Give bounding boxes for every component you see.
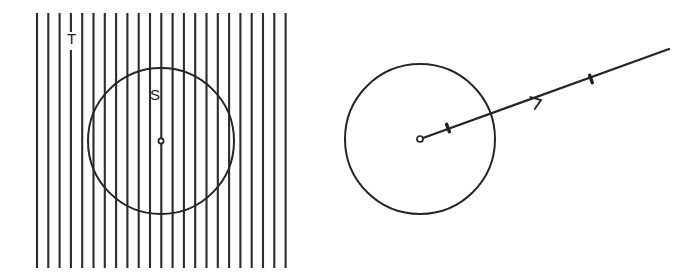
region-s-center-point [158, 138, 163, 143]
ray-tick-inner [447, 124, 450, 132]
label-t: T [67, 30, 76, 47]
figure-root: T S [0, 0, 699, 280]
figure-canvas: T S [0, 0, 699, 280]
circle-center-point [417, 136, 423, 142]
outgoing-ray [423, 49, 669, 138]
label-s: S [150, 86, 160, 103]
